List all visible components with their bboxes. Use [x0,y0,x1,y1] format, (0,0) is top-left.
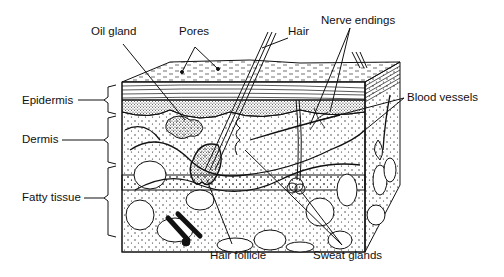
label-oil-gland: Oil gland [91,26,136,38]
skin-illustration [0,0,504,277]
label-hair-follicle: Hair follicle [210,250,266,262]
label-dermis: Dermis [22,134,58,146]
label-hair: Hair [288,26,309,38]
label-sweat-glands: Sweat glands [313,250,382,262]
label-epidermis: Epidermis [22,95,73,107]
label-pores: Pores [179,26,209,38]
skin-block [122,32,400,252]
skin-diagram: Oil gland Pores Hair Nerve endings Blood… [0,0,504,277]
label-fatty-tissue: Fatty tissue [22,192,81,204]
label-blood-vessels: Blood vessels [407,92,478,104]
label-nerve-endings: Nerve endings [321,15,395,27]
